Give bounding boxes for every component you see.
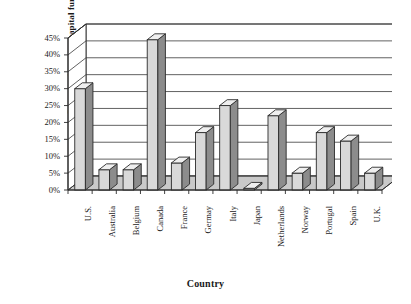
bar-front-face	[292, 173, 303, 190]
bar	[292, 167, 310, 190]
bar-front-face	[365, 173, 376, 190]
bar	[268, 110, 286, 190]
bar-front-face	[268, 116, 279, 190]
bar-front-face	[75, 89, 86, 190]
x-axis-tick-label: Italy	[229, 206, 238, 222]
bar-front-face	[99, 170, 110, 190]
bar	[316, 127, 334, 190]
bar-front-face	[147, 40, 158, 190]
y-axis-tick-label: 45%	[32, 34, 60, 43]
y-axis-tick-label: 5%	[32, 169, 60, 178]
y-axis-tick-label: 20%	[32, 118, 60, 127]
bar	[147, 34, 165, 190]
x-axis-tick-label: Japan	[253, 206, 262, 225]
bar-side-face	[351, 135, 359, 190]
x-axis-tick-label: Australia	[108, 206, 117, 237]
bar	[99, 164, 117, 190]
bar-side-face	[230, 100, 238, 190]
x-axis-tick-label: Spain	[349, 206, 358, 225]
bar-side-face	[279, 110, 287, 190]
x-axis-tick-label: Germay	[204, 206, 213, 233]
x-axis-ticks	[68, 190, 382, 194]
bar-front-face	[316, 133, 327, 190]
y-axis-tick-label: 25%	[32, 101, 60, 110]
bar-front-face	[171, 163, 182, 190]
x-axis-tick-label: Portugal	[325, 206, 334, 235]
bar	[196, 127, 214, 190]
bar	[340, 135, 358, 190]
y-axis-tick-label: 15%	[32, 135, 60, 144]
bar-front-face	[196, 133, 207, 190]
bar-front-face	[220, 106, 231, 190]
bar	[123, 164, 141, 190]
plot-svg	[62, 16, 392, 206]
y-axis-tick-label: 10%	[32, 152, 60, 161]
x-axis-tick-label: Belgium	[132, 206, 141, 235]
x-axis-tick-label: Netherlands	[277, 206, 286, 247]
y-axis-tick-label: 30%	[32, 84, 60, 93]
y-axis-tick-labels: 0%5%10%15%20%25%30%35%40%45%	[30, 0, 60, 304]
bar	[220, 100, 238, 190]
x-axis-tick-labels: U.S.AustraliaBelgiumCanadaFranceGermayIt…	[62, 206, 392, 276]
bar	[171, 157, 189, 190]
bar-front-face	[123, 170, 134, 190]
x-axis-tick-label: U.S.	[84, 206, 93, 221]
plot-area	[62, 16, 392, 206]
bar-side-face	[158, 34, 166, 190]
x-axis-tick-label: Canada	[156, 206, 165, 232]
y-axis-tick-label: 0%	[32, 186, 60, 195]
y-axis-tick-label: 35%	[32, 67, 60, 76]
x-axis-tick-label: U.K.	[373, 206, 382, 223]
x-axis-tick-label: France	[180, 206, 189, 229]
bar-side-face	[206, 127, 214, 190]
bar	[75, 83, 93, 190]
bar-chart: Percent of venture capital funds 0%5%10%…	[0, 0, 411, 304]
bar-side-face	[327, 127, 335, 190]
bar-front-face	[340, 141, 351, 190]
x-axis-tick-label: Norway	[301, 206, 310, 233]
y-axis-tick-label: 40%	[32, 50, 60, 59]
x-axis-title: Country	[0, 278, 411, 289]
bar-side-face	[85, 83, 93, 190]
bar	[365, 167, 383, 190]
